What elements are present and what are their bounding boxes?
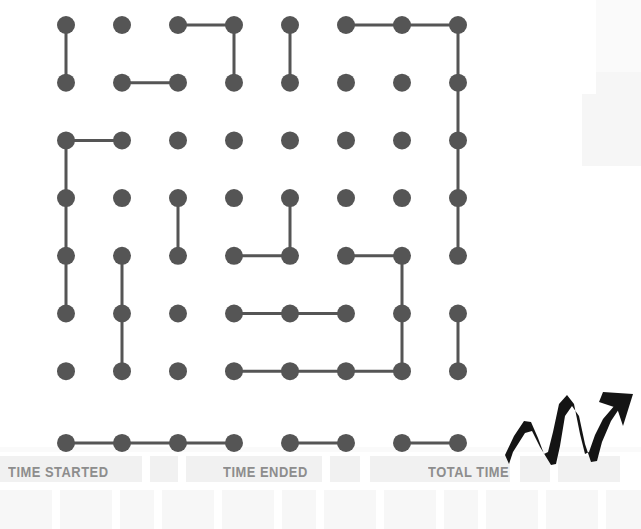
grid-dot-r2-c4[interactable] [225, 74, 243, 92]
grid-dot-r7-c5[interactable] [281, 362, 299, 380]
footer-lower-slot-8 [444, 490, 478, 529]
grid-dot-r6-c3[interactable] [169, 305, 187, 323]
grid-dot-r2-c3[interactable] [169, 74, 187, 92]
grid-dot-r3-c6[interactable] [337, 131, 355, 149]
grid-dot-r2-c5[interactable] [281, 74, 299, 92]
grid-dot-r7-c4[interactable] [225, 362, 243, 380]
grid-dot-r6-c5[interactable] [281, 305, 299, 323]
grid-dot-r1-c6[interactable] [337, 16, 355, 34]
grid-dot-r4-c7[interactable] [393, 189, 411, 207]
footer-lower-slot-10 [546, 490, 598, 529]
grid-dot-r4-c5[interactable] [281, 189, 299, 207]
upward-zigzag-arrow-icon [503, 392, 633, 484]
grid-dot-r1-c4[interactable] [225, 16, 243, 34]
grid-dot-r5-c5[interactable] [281, 247, 299, 265]
grid-dot-r6-c8[interactable] [449, 305, 467, 323]
arrow-svg [503, 392, 633, 484]
label-time-started: TIME STARTED [8, 464, 109, 479]
grid-dot-r3-c8[interactable] [449, 131, 467, 149]
grid-dot-r4-c4[interactable] [225, 189, 243, 207]
grid-dot-r3-c2[interactable] [113, 131, 131, 149]
grid-dot-r7-c1[interactable] [57, 362, 75, 380]
grid-dot-r7-c3[interactable] [169, 362, 187, 380]
grid-dot-r1-c8[interactable] [449, 16, 467, 34]
footer-lower-slot-3 [162, 490, 214, 529]
footer-lower-slot-1 [60, 490, 112, 529]
grid-dot-r5-c7[interactable] [393, 247, 411, 265]
footer-upper-slot-3 [330, 456, 360, 482]
grid-dot-r3-c3[interactable] [169, 131, 187, 149]
page-canvas: TIME STARTED TIME ENDED TOTAL TIME [0, 0, 641, 529]
footer-upper-slot-1 [150, 456, 178, 482]
grid-dot-r4-c8[interactable] [449, 189, 467, 207]
paper-band-0 [596, 0, 641, 72]
grid-dots [57, 16, 467, 452]
grid-dot-r5-c2[interactable] [113, 247, 131, 265]
grid-dot-r2-c8[interactable] [449, 74, 467, 92]
footer-lower-slot-6 [324, 490, 376, 529]
grid-dot-r1-c3[interactable] [169, 16, 187, 34]
grid-dot-r2-c2[interactable] [113, 74, 131, 92]
grid-dot-r4-c3[interactable] [169, 189, 187, 207]
grid-dot-r6-c4[interactable] [225, 305, 243, 323]
paper-band-2 [582, 94, 641, 166]
board-svg [0, 0, 520, 455]
grid-dot-r5-c4[interactable] [225, 247, 243, 265]
grid-dot-r1-c2[interactable] [113, 16, 131, 34]
grid-dot-r6-c6[interactable] [337, 305, 355, 323]
grid-dot-r4-c6[interactable] [337, 189, 355, 207]
grid-dot-r3-c7[interactable] [393, 131, 411, 149]
grid-dot-r3-c5[interactable] [281, 131, 299, 149]
grid-dot-r1-c7[interactable] [393, 16, 411, 34]
label-time-ended: TIME ENDED [223, 464, 308, 479]
grid-dot-r5-c3[interactable] [169, 247, 187, 265]
grid-dot-r1-c1[interactable] [57, 16, 75, 34]
dots-and-boxes-board[interactable] [0, 0, 520, 455]
grid-dot-r2-c7[interactable] [393, 74, 411, 92]
grid-dot-r1-c5[interactable] [281, 16, 299, 34]
footer-lower-slot-4 [222, 490, 274, 529]
grid-dot-r7-c2[interactable] [113, 362, 131, 380]
grid-dot-r4-c2[interactable] [113, 189, 131, 207]
grid-dot-r6-c7[interactable] [393, 305, 411, 323]
grid-dot-r7-c8[interactable] [449, 362, 467, 380]
grid-dot-r5-c1[interactable] [57, 247, 75, 265]
footer-lower-slot-0 [0, 490, 52, 529]
grid-dot-r2-c1[interactable] [57, 74, 75, 92]
footer-lower-slot-5 [282, 490, 316, 529]
grid-dot-r7-c7[interactable] [393, 362, 411, 380]
grid-dot-r4-c1[interactable] [57, 189, 75, 207]
grid-dot-r5-c8[interactable] [449, 247, 467, 265]
footer-lower-slot-2 [120, 490, 154, 529]
grid-dot-r2-c6[interactable] [337, 74, 355, 92]
grid-dot-r6-c2[interactable] [113, 305, 131, 323]
grid-dot-r3-c1[interactable] [57, 131, 75, 149]
grid-dot-r3-c4[interactable] [225, 131, 243, 149]
footer-lower-slot-11 [606, 490, 641, 529]
footer-lower-slot-9 [486, 490, 538, 529]
footer-lower-slot-7 [384, 490, 436, 529]
paper-band-1 [596, 72, 641, 94]
grid-dot-r6-c1[interactable] [57, 305, 75, 323]
grid-dot-r7-c6[interactable] [337, 362, 355, 380]
grid-dot-r5-c6[interactable] [337, 247, 355, 265]
label-total-time: TOTAL TIME [428, 464, 509, 479]
